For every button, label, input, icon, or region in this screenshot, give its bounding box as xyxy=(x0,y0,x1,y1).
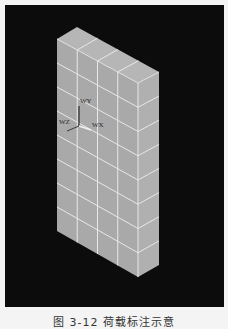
axis-label-wz: WZ xyxy=(59,118,70,126)
wall-model-drawing: WYWZWX xyxy=(5,5,224,307)
axis-label-wx: WX xyxy=(92,121,104,129)
axis-label-wy: WY xyxy=(80,97,92,105)
figure-caption: 图 3-12 荷载标注示意 xyxy=(0,313,228,329)
model-viewport: WYWZWX xyxy=(5,5,224,307)
